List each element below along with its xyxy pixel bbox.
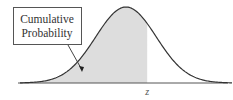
normal-curve-diagram: Cumulative Probability z <box>0 0 233 100</box>
callout-line-1: Cumulative <box>20 13 74 25</box>
callout-line-2: Probability <box>21 27 72 40</box>
z-axis-label: z <box>144 86 149 97</box>
